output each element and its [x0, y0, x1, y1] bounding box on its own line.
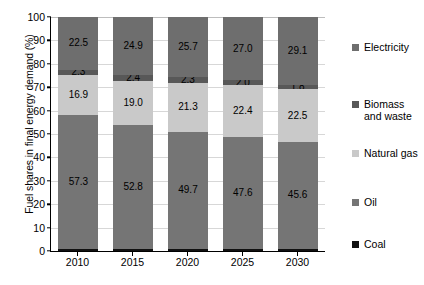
bar-segment-natural-gas[interactable]: 19.0	[113, 81, 153, 125]
x-axis-tick-label: 2010	[58, 256, 98, 268]
bar-segment-natural-gas[interactable]: 21.3	[168, 83, 208, 133]
legend-item-natural-gas[interactable]: Natural gas	[352, 148, 418, 160]
bar-segment-value: 24.9	[123, 41, 142, 51]
legend-label: Coal	[364, 239, 386, 251]
legend-item-coal[interactable]: Coal	[352, 239, 386, 251]
legend-label: Biomass and waste	[364, 99, 412, 122]
legend-swatch-icon	[352, 44, 359, 51]
bar-segment-coal[interactable]	[113, 249, 153, 251]
x-axis-labels: 20102015202020252030	[50, 256, 325, 268]
legend-swatch-icon	[352, 241, 359, 248]
bar-segment-oil[interactable]: 57.3	[58, 115, 98, 249]
bar-segment-value: 22.5	[288, 111, 307, 121]
bar-segment-value: 19.0	[123, 98, 142, 108]
y-axis-tick-label: 100	[27, 11, 51, 23]
legend-label: Electricity	[364, 42, 409, 54]
bar-segment-electricity[interactable]: 22.5	[58, 17, 98, 70]
y-axis-tick-label: 80	[33, 58, 51, 70]
y-axis-tick-label: 90	[33, 34, 51, 46]
bar-segment-electricity[interactable]: 29.1	[278, 17, 318, 85]
y-axis-tick-label: 10	[33, 222, 51, 234]
legend-swatch-icon	[352, 199, 359, 206]
y-axis-tick-label: 40	[33, 151, 51, 163]
bar-segment-natural-gas[interactable]: 16.9	[58, 75, 98, 115]
bar-column[interactable]: 27.02.022.447.6	[223, 17, 263, 251]
bar-segment-electricity[interactable]: 25.7	[168, 17, 208, 77]
legend-label: Natural gas	[364, 148, 418, 160]
bar-segment-electricity[interactable]: 27.0	[223, 17, 263, 80]
legend-label: Oil	[364, 197, 377, 209]
legend-swatch-icon	[352, 150, 359, 157]
bar-segment-oil[interactable]: 45.6	[278, 142, 318, 249]
x-axis-tick-label: 2030	[278, 256, 318, 268]
bar-segment-value: 22.4	[233, 106, 252, 116]
y-axis-tick-label: 20	[33, 198, 51, 210]
bar-segment-coal[interactable]	[223, 249, 263, 251]
bar-segment-value: 29.1	[288, 46, 307, 56]
bar-segment-value: 52.8	[123, 182, 142, 192]
bar-column[interactable]: 25.72.321.349.7	[168, 17, 208, 251]
bar-segment-value: 25.7	[178, 42, 197, 52]
bar-column[interactable]: 24.92.419.052.8	[113, 17, 153, 251]
legend-item-biomass-and-waste[interactable]: Biomass and waste	[352, 99, 412, 122]
plot-area: 0102030405060708090100 22.52.316.957.324…	[50, 17, 325, 252]
legend-item-electricity[interactable]: Electricity	[352, 42, 409, 54]
bar-column[interactable]: 22.52.316.957.3	[58, 17, 98, 251]
bar-segment-value: 21.3	[178, 102, 197, 112]
bar-segment-value: 47.6	[233, 188, 252, 198]
bar-segment-value: 49.7	[178, 185, 197, 195]
bar-segment-coal[interactable]	[58, 249, 98, 251]
bar-segment-coal[interactable]	[278, 249, 318, 251]
y-axis-tick-label: 30	[33, 175, 51, 187]
chart-legend: ElectricityBiomass and wasteNatural gasO…	[352, 17, 424, 252]
bar-segment-natural-gas[interactable]: 22.5	[278, 89, 318, 142]
stacked-bar-chart: Fuel shares in final energy demand (%) 0…	[0, 0, 424, 285]
bar-segment-value: 22.5	[69, 38, 88, 48]
bar-segment-value: 16.9	[69, 90, 88, 100]
x-axis-tick-label: 2015	[113, 256, 153, 268]
y-axis-tick-label: 70	[33, 81, 51, 93]
bar-segment-electricity[interactable]: 24.9	[113, 17, 153, 75]
y-axis-tick-label: 50	[33, 128, 51, 140]
bar-segment-oil[interactable]: 52.8	[113, 125, 153, 249]
bar-segment-oil[interactable]: 47.6	[223, 137, 263, 248]
x-axis-tick-label: 2020	[168, 256, 208, 268]
bar-segment-value: 45.6	[288, 190, 307, 200]
bar-column[interactable]: 29.11.822.545.6	[278, 17, 318, 251]
legend-swatch-icon	[352, 101, 359, 108]
bar-segment-coal[interactable]	[168, 249, 208, 251]
bar-segment-value: 27.0	[233, 44, 252, 54]
bar-segment-value: 57.3	[69, 177, 88, 187]
bar-segment-natural-gas[interactable]: 22.4	[223, 85, 263, 137]
bar-group: 22.52.316.957.324.92.419.052.825.72.321.…	[51, 17, 325, 251]
bar-segment-oil[interactable]: 49.7	[168, 132, 208, 248]
x-axis-tick-label: 2025	[223, 256, 263, 268]
legend-item-oil[interactable]: Oil	[352, 197, 377, 209]
y-axis-tick-label: 60	[33, 105, 51, 117]
